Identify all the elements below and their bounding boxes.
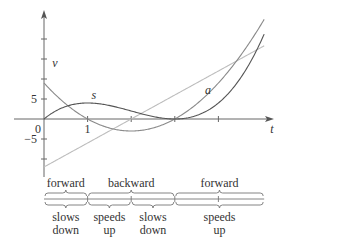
speed-label-line1: slows	[52, 210, 80, 224]
curve-label-v: v	[52, 56, 58, 70]
y-tick-label: −5	[24, 132, 37, 146]
direction-brace	[176, 190, 263, 196]
x-tick-label: 1	[85, 122, 91, 136]
speed-brace	[89, 202, 131, 208]
direction-brace	[89, 190, 174, 196]
speed-label-line1: slows	[139, 210, 167, 224]
curve-v	[44, 19, 264, 131]
curve-a	[44, 46, 264, 167]
direction-label: forward	[200, 176, 238, 190]
speed-brace	[176, 202, 263, 208]
axes	[14, 10, 274, 177]
speed-brace	[45, 202, 87, 208]
direction-label: backward	[108, 176, 155, 190]
curve-label-s: s	[92, 88, 97, 102]
x-axis-label: t	[270, 122, 274, 136]
motion-bar: forwardbackwardforwardslowsdownspeedsups…	[44, 176, 264, 237]
speed-brace	[132, 202, 174, 208]
curve-label-a: a	[205, 83, 211, 97]
speed-label-line2: up	[103, 223, 115, 237]
speed-label-line2: up	[213, 223, 225, 237]
curves	[44, 19, 264, 167]
direction-brace	[45, 190, 87, 196]
y-tick-label: 5	[31, 92, 37, 106]
speed-label-line2: down	[52, 223, 79, 237]
speed-label-line2: down	[140, 223, 167, 237]
motion-diagram: 015−5tavs forwardbackwardforwardslowsdow…	[0, 0, 349, 248]
direction-label: forward	[47, 176, 85, 190]
speed-label-line1: speeds	[203, 210, 235, 224]
speed-label-line1: speeds	[93, 210, 125, 224]
